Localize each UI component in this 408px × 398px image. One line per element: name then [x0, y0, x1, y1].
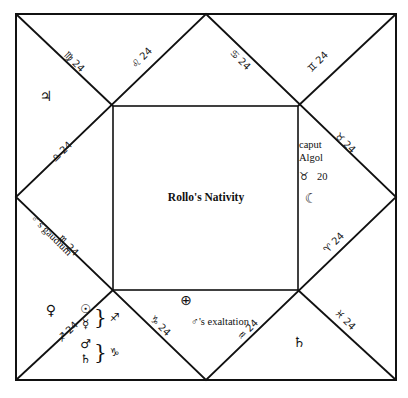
planet-venus-icon: ♀ — [46, 303, 56, 317]
annot-mars-exaltation: ♂'s exaltation — [191, 317, 249, 328]
planet-saturn-pisces-icon: ♄ — [293, 335, 306, 349]
taurus-icon: ♉ — [299, 170, 309, 183]
planet-sun-icon: ☉ — [80, 302, 91, 317]
fixed-star-algol-degree: 20 — [317, 171, 328, 182]
capricorn-icon: ♑ — [110, 347, 120, 358]
planet-mercury-icon: ☿ — [82, 317, 89, 332]
group-sagittarius-brace: } — [94, 307, 107, 327]
sagittarius-icon: ♐ — [110, 312, 120, 323]
part-of-fortune-icon: ⊕ — [180, 293, 192, 307]
group-sagittarius-members: ☉☿ — [80, 302, 91, 332]
annot-caput-algol-line2: Algol — [299, 153, 323, 164]
annot-caput-algol-line1: caput — [299, 140, 322, 151]
group-capricorn: ♂♄}♑ — [80, 337, 119, 367]
fixed-star-algol: ♉ 20 — [299, 167, 327, 183]
group-capricorn-members: ♂♄ — [80, 337, 91, 367]
group-capricorn-brace: } — [94, 342, 107, 362]
planet-mars-icon: ♂ — [80, 337, 91, 352]
planet-jupiter-icon: ♃ — [40, 89, 53, 103]
planet-saturn-cap-icon: ♄ — [80, 352, 91, 367]
planet-moon-icon: ☾ — [305, 191, 318, 205]
page-title: Rollo's Nativity — [168, 192, 244, 204]
group-sagittarius: ☉☿}♐ — [80, 302, 119, 332]
